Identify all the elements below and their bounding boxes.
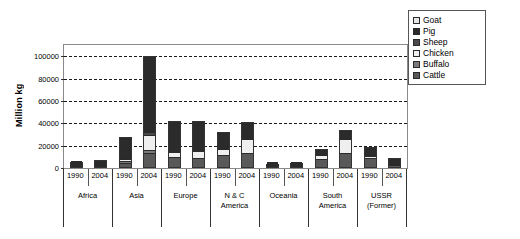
region-label-line: Asia	[112, 191, 161, 201]
bar-segment-cattle	[218, 155, 229, 167]
region-label-line: South	[308, 191, 357, 201]
y-tick-label: 60000	[38, 96, 59, 105]
legend-item-buffalo: Buffalo	[413, 59, 481, 69]
x-axis-region-label: Asia	[112, 191, 161, 201]
stacked-bar	[217, 132, 230, 168]
stacked-bar	[94, 160, 107, 168]
region-label-line: America	[308, 201, 357, 211]
x-axis-category-labels: 19902004Africa19902004Asia19902004Europe…	[63, 169, 408, 227]
bar-segment-cattle	[242, 153, 253, 167]
x-axis-year-label: 2004	[235, 171, 260, 180]
bar-segment-chicken	[242, 139, 253, 153]
x-axis-year-label: 1990	[357, 171, 382, 180]
legend-item-pig: Pig	[413, 26, 481, 36]
bar-segment-cattle	[316, 159, 327, 167]
bar-segment-pig	[242, 124, 253, 138]
stacked-bar	[315, 149, 328, 168]
legend-swatch-icon	[413, 39, 420, 46]
x-axis-year-label: 1990	[308, 171, 333, 180]
legend-item-sheep: Sheep	[413, 37, 481, 47]
stacked-bar	[192, 121, 205, 168]
bar-segment-cattle	[95, 166, 106, 167]
region-label-line: N & C	[210, 191, 259, 201]
x-axis-year-label: 2004	[137, 171, 162, 180]
legend-label: Buffalo	[423, 59, 449, 69]
x-axis-region-label: SouthAmerica	[308, 191, 357, 211]
legend-swatch-icon	[413, 72, 420, 79]
legend-label: Chicken	[423, 48, 454, 58]
stacked-bar	[266, 164, 279, 168]
chart-legend: GoatPigSheepChickenBuffaloCattle	[408, 10, 486, 85]
x-axis-region-label: Europe	[161, 191, 210, 201]
bar-segment-cattle	[267, 166, 278, 167]
region-label-line: Oceania	[259, 191, 308, 201]
x-axis-year-label: 1990	[161, 171, 186, 180]
legend-swatch-icon	[413, 61, 420, 68]
region-label-line: USSR	[357, 191, 406, 201]
bar-segment-pig	[120, 139, 131, 157]
legend-label: Sheep	[423, 37, 448, 47]
legend-item-cattle: Cattle	[413, 70, 481, 80]
x-axis-year-label: 1990	[259, 171, 284, 180]
bar-segment-pig	[169, 123, 180, 150]
x-axis-year-label: 1990	[112, 171, 137, 180]
x-axis-region-label: USSR(Former)	[357, 191, 406, 211]
region-label-line: America	[210, 201, 259, 211]
y-tick-label: 0	[55, 164, 59, 173]
bar-segment-cattle	[365, 158, 376, 167]
meat-production-stacked-bar-chart: Million kg 020000400006000080000100000 1…	[0, 0, 520, 239]
x-axis-year-label: 2004	[333, 171, 358, 180]
x-axis-year-label: 2004	[284, 171, 309, 180]
stacked-bar	[388, 158, 401, 168]
region-label-line: Europe	[161, 191, 210, 201]
stacked-bar	[290, 163, 303, 168]
plot-area	[63, 44, 408, 169]
bar-segment-pig	[218, 134, 229, 148]
y-tick-label: 40000	[38, 119, 59, 128]
stacked-bar	[143, 56, 156, 168]
x-axis-year-label: 2004	[186, 171, 211, 180]
legend-label: Pig	[423, 26, 435, 36]
stacked-bar	[119, 137, 132, 168]
axis-group-separator	[406, 169, 407, 227]
bar-segment-cattle	[71, 166, 82, 167]
x-axis-year-label: 1990	[63, 171, 88, 180]
bar-segment-chicken	[144, 135, 155, 151]
stacked-bar	[364, 147, 377, 168]
legend-item-chicken: Chicken	[413, 48, 481, 58]
region-label-line: Africa	[63, 191, 112, 201]
bar-segment-pig	[193, 123, 204, 150]
x-axis-year-label: 1990	[210, 171, 235, 180]
region-label-line: (Former)	[357, 201, 406, 211]
x-axis-region-label: N & CAmerica	[210, 191, 259, 211]
x-axis-year-label: 2004	[88, 171, 113, 180]
bar-segment-cattle	[340, 153, 351, 167]
bar-segment-chicken	[340, 139, 351, 153]
stacked-bar	[339, 130, 352, 168]
y-tick-label: 80000	[38, 74, 59, 83]
bar-series-container	[64, 45, 407, 168]
bar-segment-cattle	[291, 166, 302, 167]
bar-segment-cattle	[144, 153, 155, 167]
stacked-bar	[168, 121, 181, 168]
legend-swatch-icon	[413, 17, 420, 24]
y-axis-tick-labels: 020000400006000080000100000	[24, 40, 62, 170]
legend-label: Goat	[423, 15, 441, 25]
x-axis-region-label: Oceania	[259, 191, 308, 201]
bar-segment-pig	[144, 58, 155, 132]
legend-swatch-icon	[413, 50, 420, 57]
legend-item-goat: Goat	[413, 15, 481, 25]
stacked-bar	[70, 162, 83, 168]
y-tick-label: 100000	[34, 52, 59, 61]
x-axis-year-label: 2004	[382, 171, 407, 180]
bar-segment-cattle	[169, 157, 180, 167]
bar-segment-cattle	[120, 163, 131, 167]
stacked-bar	[241, 122, 254, 168]
bar-segment-chicken	[193, 151, 204, 158]
x-axis-region-label: Africa	[63, 191, 112, 201]
bar-segment-cattle	[193, 158, 204, 167]
legend-swatch-icon	[413, 28, 420, 35]
y-tick-label: 20000	[38, 141, 59, 150]
legend-label: Cattle	[423, 70, 445, 80]
bar-segment-cattle	[389, 165, 400, 167]
